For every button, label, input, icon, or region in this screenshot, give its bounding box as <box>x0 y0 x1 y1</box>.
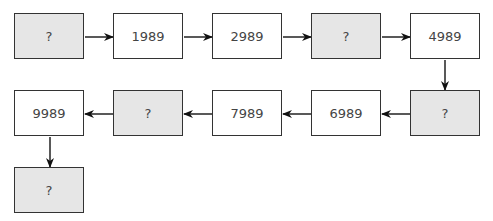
node-unknown: ? <box>311 13 381 59</box>
node: 1989 <box>113 13 183 59</box>
node: 2989 <box>212 13 282 59</box>
node: 9989 <box>14 90 84 136</box>
node: 6989 <box>311 90 381 136</box>
node-unknown: ? <box>14 167 84 213</box>
node-unknown: ? <box>14 13 84 59</box>
node-unknown: ? <box>113 90 183 136</box>
node: 4989 <box>410 13 480 59</box>
node: 7989 <box>212 90 282 136</box>
node-unknown: ? <box>410 90 480 136</box>
